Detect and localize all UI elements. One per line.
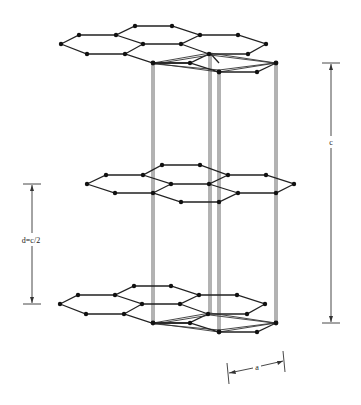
bottom-graphene-layer xyxy=(58,284,279,335)
lattice-a-label: a xyxy=(255,363,259,372)
top-graphene-layer xyxy=(59,24,279,75)
c-axis-dimension xyxy=(322,63,340,323)
interlayer-distance-label: d=c/2 xyxy=(22,236,40,245)
middle-graphene-layer xyxy=(85,163,296,204)
c-axis-label: c xyxy=(329,138,333,147)
graphite-structure-diagram: c d=c/2 a xyxy=(0,0,361,405)
